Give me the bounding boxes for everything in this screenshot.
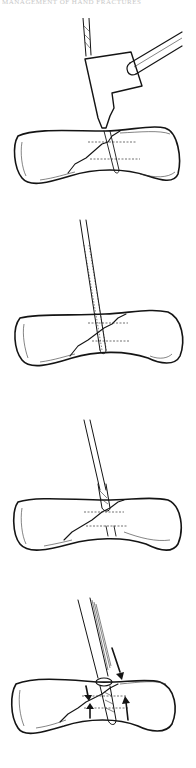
fracture-line-4	[60, 684, 118, 722]
panel-lag-screw	[0, 580, 196, 768]
compression-arrows	[84, 648, 130, 720]
tap-2	[80, 220, 130, 354]
bone-2	[15, 310, 183, 365]
lag-screw-4	[82, 678, 128, 725]
bone-1	[15, 127, 180, 184]
bone-3	[14, 498, 181, 550]
panel-drill-guide	[0, 18, 196, 198]
drill-guide-handle	[127, 32, 182, 75]
fracture-line-3	[64, 500, 124, 540]
bone-4	[12, 679, 175, 733]
panel-countersink	[0, 390, 196, 570]
fracture-line-1	[68, 131, 120, 173]
drill-hole-1	[88, 131, 140, 173]
running-header: MANAGEMENT OF HAND FRACTURES	[2, 0, 162, 4]
drill-bit-1	[83, 18, 91, 56]
screwdriver-4	[78, 598, 111, 678]
drill-bit-3	[84, 420, 128, 536]
drill-guide-block	[85, 52, 142, 128]
panel-tap	[0, 200, 196, 380]
